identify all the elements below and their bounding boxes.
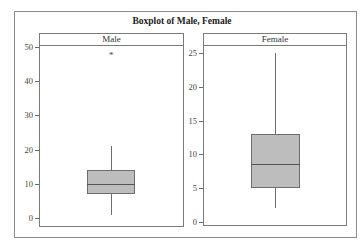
y-tick xyxy=(35,218,39,219)
y-tick-label: 10 xyxy=(17,179,33,189)
y-tick xyxy=(199,121,203,122)
y-tick-label: 0 xyxy=(17,213,33,223)
female-panel-header: Female xyxy=(204,34,346,46)
y-tick xyxy=(35,115,39,116)
male-panel-header: Male xyxy=(40,34,183,46)
y-tick xyxy=(199,53,203,54)
outlier-marker: * xyxy=(109,51,114,60)
median-line xyxy=(87,184,135,185)
y-tick xyxy=(199,222,203,223)
y-tick-label: 25 xyxy=(181,48,197,58)
y-tick xyxy=(199,188,203,189)
y-tick-label: 0 xyxy=(181,217,197,227)
y-tick-label: 30 xyxy=(17,110,33,120)
y-tick xyxy=(35,47,39,48)
y-tick xyxy=(199,87,203,88)
y-tick xyxy=(35,150,39,151)
y-tick xyxy=(35,81,39,82)
y-tick-label: 50 xyxy=(17,42,33,52)
median-line xyxy=(251,164,300,165)
iqr-box xyxy=(87,170,135,194)
y-tick-label: 5 xyxy=(181,183,197,193)
chart-title: Boxplot of Male, Female xyxy=(0,16,364,26)
iqr-box xyxy=(251,134,300,188)
y-tick-label: 15 xyxy=(181,116,197,126)
y-tick xyxy=(35,184,39,185)
y-tick-label: 20 xyxy=(17,145,33,155)
y-tick-label: 40 xyxy=(17,76,33,86)
y-tick-label: 10 xyxy=(181,149,197,159)
y-tick xyxy=(199,154,203,155)
y-tick-label: 20 xyxy=(181,82,197,92)
